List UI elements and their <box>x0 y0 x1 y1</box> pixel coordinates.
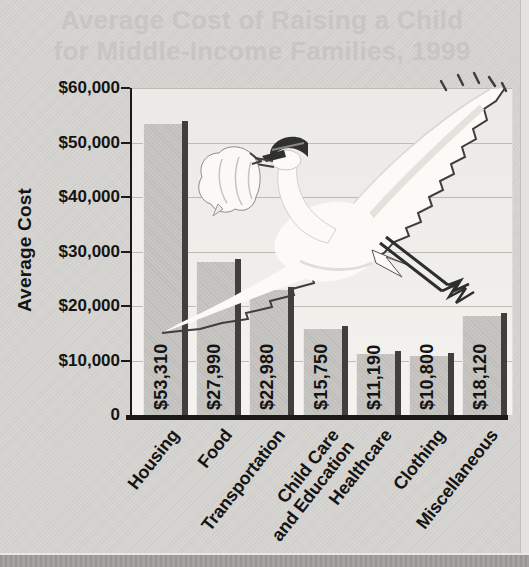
y-tick-label: $60,000 <box>34 78 120 98</box>
y-axis-tick-mark <box>121 142 130 144</box>
bar: $22,980 <box>249 290 294 415</box>
x-tick-label-line: Food <box>129 426 236 556</box>
y-axis-tick-mark <box>121 360 130 362</box>
gridline <box>130 88 512 89</box>
y-axis-tick-mark <box>121 251 130 253</box>
x-tick-label: Miscellaneous <box>395 426 502 556</box>
chart-title: Average Cost of Raising a Child for Midd… <box>0 5 524 67</box>
bar-value-label: $11,190 <box>364 345 385 410</box>
y-tick-label: $30,000 <box>34 242 120 262</box>
y-tick-label: $20,000 <box>34 296 120 316</box>
y-axis-line <box>130 88 132 415</box>
x-tick-label-line: Housing <box>76 426 183 556</box>
x-tick-label: Housing <box>76 426 183 556</box>
bar-value-label: $10,800 <box>417 344 438 410</box>
plot-area: $53,310$27,990$22,980$15,750$11,190$10,8… <box>130 88 513 415</box>
bar-value-label: $22,980 <box>257 344 278 410</box>
y-axis-tick-mark <box>121 196 130 198</box>
bar: $10,800 <box>409 356 454 415</box>
bar: $53,310 <box>143 124 188 415</box>
y-tick-label: $10,000 <box>34 351 120 371</box>
x-tick-label-line: Clothing <box>341 426 448 556</box>
bar: $27,990 <box>196 262 241 415</box>
x-tick-label: Food <box>129 426 236 556</box>
y-axis-tick-mark <box>121 305 130 307</box>
page-bottom-border <box>0 553 529 567</box>
y-tick-label: 0 <box>34 405 120 425</box>
chart-title-line2: for Middle-Income Families, 1999 <box>0 36 524 67</box>
bar-value-label: $53,310 <box>151 344 172 410</box>
y-tick-label: $50,000 <box>34 133 120 153</box>
bar-value-label: $27,990 <box>204 344 225 410</box>
x-axis-line <box>126 415 508 420</box>
y-axis-tick-mark <box>121 87 130 89</box>
bar-value-label: $15,750 <box>311 344 332 410</box>
scanned-chart-page: Average Cost of Raising a Child for Midd… <box>0 0 529 567</box>
bar: $18,120 <box>462 316 507 415</box>
chart-title-line1: Average Cost of Raising a Child <box>0 5 524 36</box>
bar: $15,750 <box>303 329 348 415</box>
bar-value-label: $18,120 <box>470 344 491 410</box>
x-tick-label-line: Miscellaneous <box>395 426 502 556</box>
bar: $11,190 <box>356 354 401 415</box>
y-tick-label: $40,000 <box>34 187 120 207</box>
page-right-margin <box>520 0 529 553</box>
y-axis-title: Average Cost <box>14 170 34 330</box>
x-tick-label: Clothing <box>341 426 448 556</box>
